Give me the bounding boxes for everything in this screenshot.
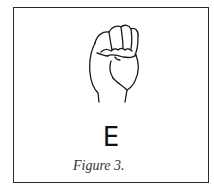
asl-letter-label: E bbox=[14, 123, 208, 151]
asl-letter-e-hand-icon bbox=[89, 23, 141, 103]
figure-frame: E Figure 3. bbox=[13, 7, 209, 183]
figure-caption: Figure 3. bbox=[73, 158, 125, 174]
